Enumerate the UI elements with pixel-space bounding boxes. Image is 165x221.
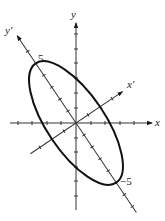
y-axis-label: y xyxy=(70,8,76,20)
lower-vertex-label: −5 xyxy=(120,175,132,187)
x-axis-label: x xyxy=(154,116,160,128)
x-prime-axis-label: x′ xyxy=(126,78,135,90)
x-axis xyxy=(10,121,152,125)
y-axis xyxy=(74,23,78,210)
upper-vertex-label: 5 xyxy=(38,52,44,64)
ellipse-diagram: x y x′ y′ 5 −5 xyxy=(0,0,165,221)
y-prime-axis-label: y′ xyxy=(4,24,13,36)
